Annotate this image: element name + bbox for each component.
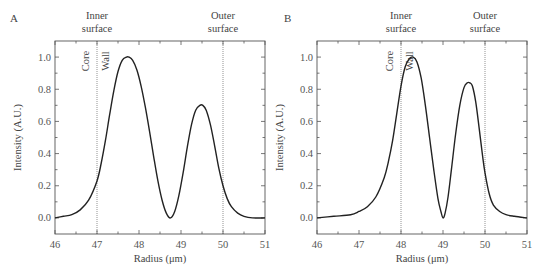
outer-surface-label: Outer [473, 10, 497, 21]
x-tick-label: 49 [438, 239, 449, 250]
inner-surface-label: surface [82, 23, 113, 34]
x-axis: 464748495051Radius (μm) [312, 41, 533, 265]
y-tick-label: 0.2 [300, 180, 313, 191]
y-tick-label: 0.4 [300, 148, 314, 159]
wall-label: Wall [100, 51, 111, 71]
x-tick-label: 46 [312, 239, 323, 250]
y-tick-label: 0.2 [38, 180, 51, 191]
x-tick-label: 50 [480, 239, 491, 250]
outer-surface-label: Outer [211, 10, 235, 21]
inner-surface-label: Inner [390, 10, 413, 21]
x-tick-label: 51 [522, 239, 533, 250]
inner-surface-label: surface [386, 23, 417, 34]
core-label: Core [80, 50, 91, 71]
y-axis-label: Intensity (A.U.) [274, 104, 286, 171]
intensity-curve [55, 57, 265, 218]
y-tick-label: 0.0 [38, 212, 51, 223]
y-tick-label: 0.4 [38, 148, 52, 159]
plot-frame [317, 41, 527, 234]
intensity-curve [317, 57, 527, 218]
x-tick-label: 46 [50, 239, 61, 250]
y-tick-label: 0.8 [300, 84, 313, 95]
y-tick-label: 1.0 [300, 52, 313, 63]
outer-surface-label: surface [208, 23, 239, 34]
panel-b: B464748495051Radius (μm)0.00.20.40.60.81… [274, 10, 532, 265]
x-tick-label: 47 [92, 239, 103, 250]
wall-label: Wall [404, 51, 415, 71]
x-tick-label: 48 [396, 239, 407, 250]
y-tick-label: 0.6 [300, 116, 313, 127]
y-axis-label: Intensity (A.U.) [12, 104, 24, 171]
outer-surface-label: surface [470, 23, 501, 34]
core-label: Core [384, 50, 395, 71]
x-axis-label: Radius (μm) [134, 253, 187, 265]
panel-label: A [10, 12, 18, 24]
panel-label: B [284, 12, 291, 24]
x-tick-label: 48 [134, 239, 145, 250]
y-tick-label: 0.8 [38, 84, 51, 95]
y-tick-label: 1.0 [38, 52, 51, 63]
x-axis-label: Radius (μm) [396, 253, 449, 265]
inner-surface-label: Inner [86, 10, 109, 21]
x-tick-label: 47 [354, 239, 365, 250]
figure: A464748495051Radius (μm)0.00.20.40.60.81… [0, 0, 548, 272]
panel-a: A464748495051Radius (μm)0.00.20.40.60.81… [10, 10, 270, 265]
y-tick-label: 0.0 [300, 212, 313, 223]
x-tick-label: 49 [176, 239, 187, 250]
x-axis: 464748495051Radius (μm) [50, 41, 271, 265]
y-tick-label: 0.6 [38, 116, 51, 127]
x-tick-label: 50 [218, 239, 229, 250]
x-tick-label: 51 [260, 239, 271, 250]
y-axis: 0.00.20.40.60.81.0Intensity (A.U.) [274, 52, 527, 224]
